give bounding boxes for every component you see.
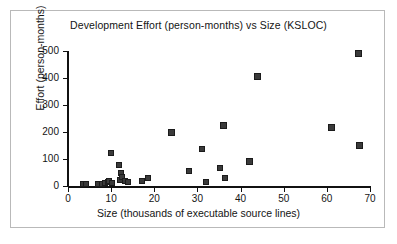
figure-frame: Development Effort (person-months) vs Si… (10, 10, 385, 228)
scatter-point (116, 162, 122, 168)
x-tick-label: 70 (355, 193, 385, 204)
x-tick-label: 20 (139, 193, 169, 204)
x-tick-label: 50 (269, 193, 299, 204)
scatter-point (355, 50, 362, 57)
y-tick-label: 100 (25, 153, 59, 164)
scatter-point (145, 175, 151, 181)
scatter-point (83, 181, 89, 187)
scatter-point (328, 124, 335, 131)
x-tick-mark (111, 186, 112, 192)
x-tick-mark (327, 186, 328, 192)
scatter-point (168, 129, 175, 136)
x-tick-label: 0 (53, 193, 83, 204)
x-tick-label: 30 (182, 193, 212, 204)
scatter-point (186, 168, 192, 174)
y-tick-label: 200 (25, 126, 59, 137)
x-tick-mark (370, 186, 371, 192)
x-tick-label: 40 (226, 193, 256, 204)
x-tick-mark (197, 186, 198, 192)
scatter-point (254, 73, 261, 80)
scatter-point (246, 158, 253, 165)
scatter-point (356, 142, 363, 149)
x-tick-mark (68, 186, 69, 192)
x-tick-label: 60 (312, 193, 342, 204)
scatter-point (109, 180, 115, 186)
chart-title: Development Effort (person-months) vs Si… (11, 19, 386, 31)
y-tick-label: 500 (25, 45, 59, 56)
scatter-point (125, 179, 131, 185)
scatter-point (220, 122, 227, 129)
scatter-point (217, 165, 223, 171)
x-tick-mark (241, 186, 242, 192)
x-tick-mark (154, 186, 155, 192)
scatter-point (203, 179, 209, 185)
scatter-point (199, 146, 205, 152)
scatter-point (222, 175, 228, 181)
x-tick-mark (284, 186, 285, 192)
scatter-point (108, 150, 114, 156)
plot-area (68, 51, 370, 186)
x-tick-label: 10 (96, 193, 126, 204)
x-axis-label: Size (thousands of executable source lin… (11, 207, 386, 219)
y-tick-label: 0 (25, 180, 59, 191)
y-tick-label: 300 (25, 99, 59, 110)
y-tick-label: 400 (25, 72, 59, 83)
x-axis-line (68, 186, 370, 188)
